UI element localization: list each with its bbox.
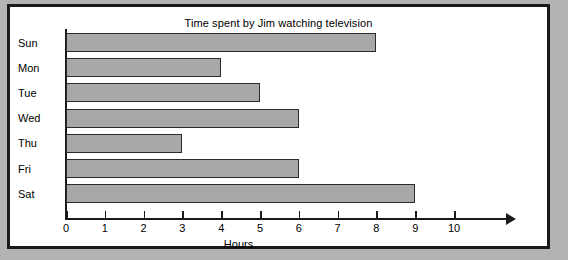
x-axis-tick-mark	[338, 211, 340, 219]
x-axis-tick-mark	[105, 211, 107, 219]
x-axis-tick-label: 8	[364, 222, 388, 234]
bar	[66, 184, 415, 203]
bar-row: Mon	[10, 58, 547, 77]
bar	[66, 58, 221, 77]
bar	[66, 134, 182, 153]
x-axis-tick-label: 6	[287, 222, 311, 234]
page-root: Time spent by Jim watching television Su…	[0, 0, 568, 260]
bar-category-label: Tue	[18, 87, 64, 99]
x-axis-tick-label: 5	[248, 222, 272, 234]
bar-row: Tue	[10, 83, 547, 102]
x-axis-tick-mark	[144, 211, 146, 219]
bar	[66, 33, 376, 52]
x-axis-tick-label: 2	[132, 222, 156, 234]
bar-row: Thu	[10, 134, 547, 153]
bar	[66, 83, 260, 102]
x-axis-title: Hours	[10, 238, 547, 250]
x-axis-tick-label: 10	[442, 222, 466, 234]
chart-frame: Time spent by Jim watching television Su…	[7, 4, 550, 249]
x-axis-line	[65, 218, 508, 220]
x-axis-tick-mark	[182, 211, 184, 219]
x-axis-tick-label: 9	[403, 222, 427, 234]
x-axis-tick-label: 4	[209, 222, 233, 234]
x-axis-tick-mark	[299, 211, 301, 219]
bar-row: Wed	[10, 109, 547, 128]
bar-category-label: Wed	[18, 112, 64, 124]
bar-row: Fri	[10, 159, 547, 178]
x-axis-tick-mark	[454, 211, 456, 219]
bar-row: Sun	[10, 33, 547, 52]
x-axis-tick-mark	[415, 211, 417, 219]
bar-category-label: Sat	[18, 188, 64, 200]
x-axis-tick-label: 3	[170, 222, 194, 234]
bar-category-label: Mon	[18, 62, 64, 74]
x-axis-tick-label: 1	[93, 222, 117, 234]
x-axis-title-text: Hours	[224, 238, 253, 250]
x-axis-tick-mark	[221, 211, 223, 219]
x-axis-tick-mark	[260, 211, 262, 219]
bar-row: Sat	[10, 184, 547, 203]
bar-category-label: Sun	[18, 37, 64, 49]
bar-category-label: Fri	[18, 163, 64, 175]
x-axis-arrow-icon	[506, 213, 516, 225]
x-axis-tick-mark	[66, 211, 68, 219]
x-axis-tick-label: 0	[54, 222, 78, 234]
bar-category-label: Thu	[18, 137, 64, 149]
x-axis-tick-label: 7	[326, 222, 350, 234]
plot-area: SunMonTueWedThuFriSat 012345678910 Hours	[10, 7, 547, 246]
x-axis-tick-mark	[376, 211, 378, 219]
bar	[66, 159, 299, 178]
bar	[66, 109, 299, 128]
